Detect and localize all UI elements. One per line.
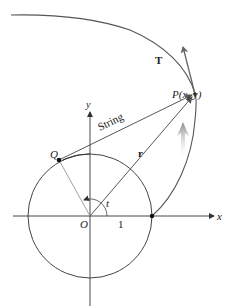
motion-direction-arrow <box>177 122 189 160</box>
unwound-arc <box>63 154 90 160</box>
radius-oq <box>59 160 90 216</box>
y-axis-label: y <box>85 99 91 110</box>
involute-diagram: T P(x, y) String Q r y x O 1 t <box>0 0 234 308</box>
tangent-label: T <box>155 54 163 66</box>
x-axis-label: x <box>216 210 222 222</box>
radius-vector-label: r <box>138 147 143 159</box>
angle-t-label: t <box>106 197 110 209</box>
origin-label: O <box>80 218 88 230</box>
unit-label: 1 <box>118 218 124 230</box>
diagram-canvas: T P(x, y) String Q r y x O 1 t <box>0 0 234 308</box>
angle-t-arc <box>84 199 107 216</box>
involute-curve <box>11 15 196 216</box>
point-q-label: Q <box>50 148 58 160</box>
string-segment <box>59 95 192 160</box>
point-p-label: P(x, y) <box>171 88 202 101</box>
point-start-dot <box>150 214 154 218</box>
tangent-vector <box>183 47 195 94</box>
